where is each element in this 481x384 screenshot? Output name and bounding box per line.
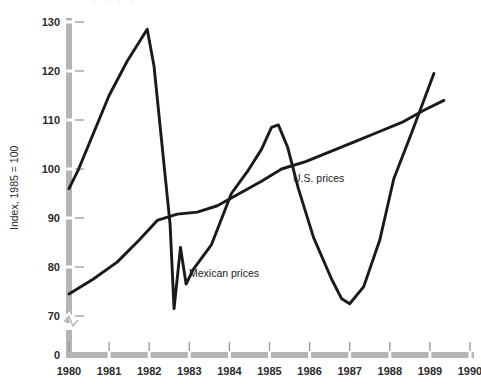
y-tick-label-80: 80: [48, 261, 60, 273]
x-tick-label-1983: 1983: [177, 365, 201, 377]
series-line-u-s-prices: [69, 100, 444, 294]
y-tick-gap-120: [66, 70, 72, 73]
x-tick-gap-1986: [308, 352, 311, 358]
y-tick-label-120: 120: [42, 65, 60, 77]
series-label-mexican-prices: Mexican prices: [189, 267, 259, 279]
x-axis-tick-labels: 1980198119821983198419851986198719881989…: [57, 365, 481, 377]
x-tick-label-1982: 1982: [137, 365, 161, 377]
line-chart: 7080901001101201300 19801981198219831984…: [0, 0, 481, 384]
x-tick-label-1987: 1987: [337, 365, 361, 377]
y-axis-title: Index, 1985 = 100: [8, 145, 20, 230]
x-tick-gap-1981: [108, 352, 111, 358]
chart-container: · · · · 7080901001101201300 198019811982…: [0, 0, 481, 384]
x-axis: [66, 342, 474, 358]
x-tick-gap-1988: [388, 352, 391, 358]
series-label-u-s-prices: U.S. prices: [293, 172, 344, 184]
y-tick-label-zero: 0: [54, 349, 60, 361]
x-tick-label-1990: 1990: [458, 365, 481, 377]
y-tick-label-70: 70: [48, 310, 60, 322]
x-tick-gap-1990: [469, 352, 472, 358]
x-tick-label-1980: 1980: [57, 365, 81, 377]
y-tick-label-130: 130: [42, 16, 60, 28]
y-axis-tick-labels: 7080901001101201300: [42, 16, 60, 361]
x-tick-label-1989: 1989: [418, 365, 442, 377]
x-tick-label-1988: 1988: [378, 365, 402, 377]
y-tick-gap-100: [66, 168, 72, 171]
y-tick-gap-80: [66, 266, 72, 269]
x-tick-label-1986: 1986: [297, 365, 321, 377]
y-tick-label-110: 110: [42, 114, 60, 126]
x-tick-gap-1989: [428, 352, 431, 358]
x-tick-gap-1985: [268, 352, 271, 358]
x-axis-ticks: [69, 342, 470, 351]
top-cropped-text-artifact: · · · ·: [0, 0, 481, 7]
x-tick-label-1985: 1985: [257, 365, 281, 377]
x-tick-gap-1987: [348, 352, 351, 358]
x-tick-label-1984: 1984: [217, 365, 242, 377]
x-tick-label-1981: 1981: [97, 365, 121, 377]
x-tick-gap-1984: [228, 352, 231, 358]
x-tick-gap-1983: [188, 352, 191, 358]
y-tick-label-100: 100: [42, 163, 60, 175]
top-artifact-text: · · · ·: [92, 0, 481, 7]
series-annotations: Mexican pricesU.S. prices: [189, 172, 344, 279]
y-tick-gap-90: [66, 217, 72, 220]
y-tick-gap-130: [66, 21, 72, 24]
y-tick-gap-110: [66, 119, 72, 122]
y-tick-label-90: 90: [48, 212, 60, 224]
x-tick-gap-1982: [148, 352, 151, 358]
